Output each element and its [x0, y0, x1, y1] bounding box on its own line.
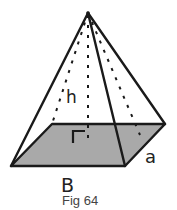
edge-back-right — [88, 13, 165, 124]
label-h: h — [66, 87, 77, 107]
apex-point — [86, 11, 90, 15]
label-a: a — [145, 146, 156, 167]
figure-caption: Fig 64 — [62, 193, 98, 208]
pyramid-diagram: h B a Fig 64 — [0, 0, 177, 210]
hidden-edge-back-left — [52, 13, 88, 124]
